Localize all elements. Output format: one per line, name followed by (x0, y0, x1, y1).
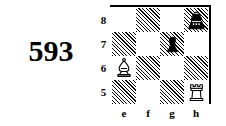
board-square-f6[interactable] (136, 56, 160, 80)
black-king-icon[interactable] (184, 8, 208, 32)
file-label-f: f (136, 104, 160, 122)
rank-label-5: 5 (96, 80, 111, 104)
rank-label-6: 6 (96, 56, 111, 80)
file-label-g: g (160, 104, 184, 122)
rank-label-8: 8 (96, 8, 111, 32)
board-square-h5[interactable] (184, 80, 208, 104)
board-square-e5[interactable] (112, 80, 136, 104)
black-pawn-icon[interactable] (160, 32, 184, 56)
chessboard (112, 8, 208, 104)
board-square-e7[interactable] (112, 32, 136, 56)
board-square-f7[interactable] (136, 32, 160, 56)
file-label-h: h (184, 104, 208, 122)
board-square-h8[interactable] (184, 8, 208, 32)
board-square-g8[interactable] (160, 8, 184, 32)
rank-label-7: 7 (96, 32, 111, 56)
board-square-g5[interactable] (160, 80, 184, 104)
file-label-e: e (112, 104, 136, 122)
board-square-g6[interactable] (160, 56, 184, 80)
file-labels: e f g h (112, 104, 208, 122)
board-square-h6[interactable] (184, 56, 208, 80)
board-right-border (209, 5, 211, 104)
rank-labels: 8 7 6 5 (96, 8, 111, 104)
board-square-e8[interactable] (112, 8, 136, 32)
white-rook-icon[interactable] (184, 80, 208, 104)
puzzle-number: 593 (8, 36, 94, 66)
white-bishop-icon[interactable] (112, 56, 136, 80)
board-square-f5[interactable] (136, 80, 160, 104)
chess-puzzle-diagram: 593 8 7 6 5 e f g h (0, 0, 226, 126)
board-square-h7[interactable] (184, 32, 208, 56)
chess-diagram: 8 7 6 5 e f g h (96, 0, 226, 126)
board-square-e6[interactable] (112, 56, 136, 80)
board-square-g7[interactable] (160, 32, 184, 56)
board-square-f8[interactable] (136, 8, 160, 32)
board-top-border (110, 5, 211, 7)
